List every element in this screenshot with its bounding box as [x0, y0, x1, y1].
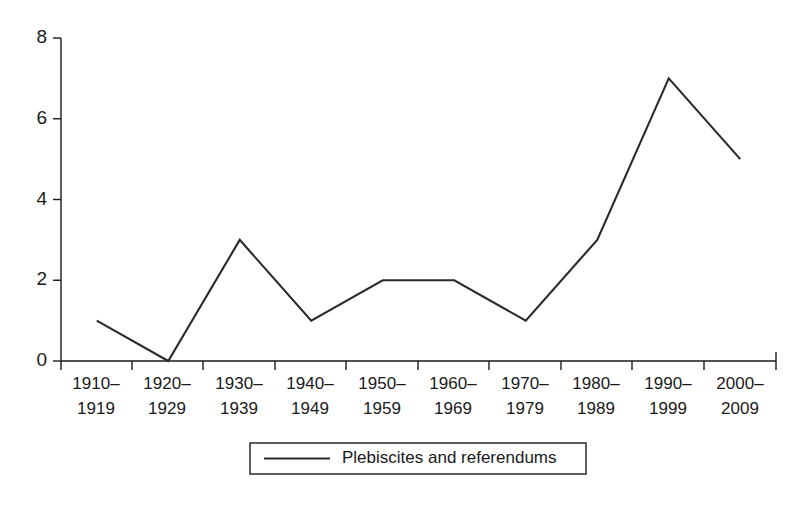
x-tick-label-top: 1920–	[143, 374, 191, 393]
x-tick-label-bottom: 1949	[291, 399, 329, 418]
x-tick-label-top: 1950–	[358, 374, 406, 393]
x-tick-label-top: 1990–	[644, 374, 692, 393]
chart-background	[0, 0, 801, 513]
y-tick-label: 4	[36, 188, 47, 209]
x-tick-label-top: 2000–	[716, 374, 764, 393]
y-tick-label: 6	[36, 107, 47, 128]
y-tick-label: 0	[36, 349, 47, 370]
x-tick-label-bottom: 1979	[506, 399, 544, 418]
y-tick-label: 2	[36, 268, 47, 289]
x-tick-label-bottom: 1989	[577, 399, 615, 418]
x-tick-label-top: 1970–	[501, 374, 549, 393]
line-chart: 8 6 4 2 0 1910– 1919 1920– 1929 193	[0, 0, 801, 513]
chart-legend: Plebiscites and referendums	[250, 443, 586, 474]
x-tick-label-top: 1980–	[572, 374, 620, 393]
legend-label: Plebiscites and referendums	[342, 448, 557, 467]
x-tick-label-bottom: 1969	[434, 399, 472, 418]
x-tick-label-top: 1940–	[286, 374, 334, 393]
x-tick-label-bottom: 1929	[148, 399, 186, 418]
chart-figure: 8 6 4 2 0 1910– 1919 1920– 1929 193	[0, 0, 801, 513]
x-tick-label-bottom: 1939	[220, 399, 258, 418]
x-tick-label-bottom: 1959	[363, 399, 401, 418]
x-tick-label-top: 1910–	[72, 374, 120, 393]
x-tick-label-bottom: 2009	[721, 399, 759, 418]
x-tick-label-top: 1930–	[215, 374, 263, 393]
x-tick-label-bottom: 1999	[649, 399, 687, 418]
y-tick-label: 8	[36, 26, 47, 47]
x-tick-label-bottom: 1919	[77, 399, 115, 418]
x-tick-label-top: 1960–	[429, 374, 477, 393]
